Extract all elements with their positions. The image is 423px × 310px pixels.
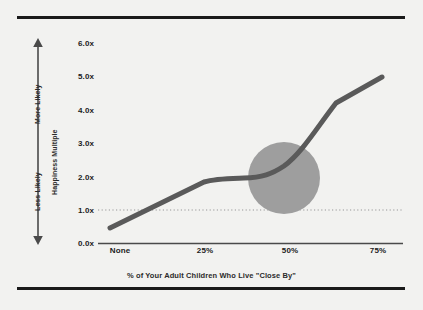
x-tick-label-50: 50% xyxy=(270,246,310,255)
x-tick-label-75: 75% xyxy=(358,246,398,255)
y-axis-title: Happiness Multiple xyxy=(51,129,58,195)
y-tick-label-6: 6.0x xyxy=(64,39,94,48)
y-tick-label-3: 3.0x xyxy=(64,139,94,148)
x-tick-label-none: None xyxy=(100,246,140,255)
x-tick-label-25: 25% xyxy=(185,246,225,255)
likelihood-direction-arrow xyxy=(33,38,43,245)
happiness-multiple-line xyxy=(110,77,382,228)
y-tick-label-2: 2.0x xyxy=(64,173,94,182)
y-tick-label-0: 0.0x xyxy=(64,239,94,248)
more-likely-label: More Likely xyxy=(34,84,41,124)
chart-page: 6.0x 5.0x 4.0x 3.0x 2.0x 1.0x 0.0x None … xyxy=(0,0,423,310)
y-tick-label-4: 4.0x xyxy=(64,106,94,115)
x-axis-title: % of Your Adult Children Who Live "Close… xyxy=(0,271,423,280)
y-tick-label-5: 5.0x xyxy=(64,72,94,81)
y-tick-label-1: 1.0x xyxy=(64,206,94,215)
less-likely-label: Less Likely xyxy=(34,172,41,211)
